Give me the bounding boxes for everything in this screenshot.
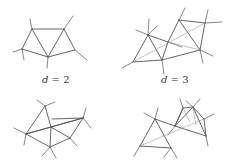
half-edge	[22, 49, 24, 60]
half-edge	[155, 108, 158, 119]
graph-edge	[22, 29, 32, 49]
half-edge	[134, 146, 140, 156]
half-edge	[122, 62, 133, 68]
half-edge	[14, 128, 26, 134]
half-edge	[168, 42, 182, 47]
graph-bottom-right	[134, 99, 214, 158]
half-edge	[144, 113, 155, 119]
graph-edge	[45, 106, 51, 127]
graph-edge	[133, 60, 162, 62]
graph-top-left	[13, 16, 87, 68]
graph-edge	[162, 50, 200, 60]
half-edge	[50, 147, 56, 158]
graph-edge	[179, 20, 205, 23]
half-edge	[30, 19, 32, 29]
half-edge	[70, 138, 77, 146]
graph-edge	[51, 127, 70, 138]
graph-edge	[183, 107, 193, 108]
half-edge	[164, 148, 171, 157]
half-edge	[186, 101, 193, 107]
dashed-edge	[183, 108, 190, 122]
half-edge	[180, 99, 183, 108]
half-edge	[83, 118, 91, 128]
half-edge	[47, 57, 48, 68]
graph-edge	[175, 107, 193, 126]
label-d2-eq: = 2	[48, 74, 69, 85]
half-edge	[75, 50, 87, 60]
graph-bottom-left	[14, 100, 91, 158]
graph-edge	[175, 126, 206, 136]
graph-edge	[175, 108, 183, 126]
half-edge	[148, 26, 157, 35]
half-edge	[37, 100, 45, 106]
half-edge	[205, 22, 222, 23]
half-edge	[168, 126, 175, 135]
graph-edge	[26, 134, 50, 147]
graph-edge	[50, 138, 70, 147]
half-edge	[205, 10, 208, 23]
half-edge	[136, 30, 148, 35]
half-edge	[206, 136, 208, 146]
half-edge	[83, 108, 86, 118]
half-edge	[64, 16, 73, 29]
half-edge	[13, 49, 22, 52]
half-edge	[200, 50, 213, 56]
half-edge	[162, 60, 164, 74]
graph-edge	[168, 20, 179, 42]
half-edge	[193, 99, 200, 107]
graph-edge	[140, 119, 155, 146]
label-d3: d = 3	[161, 74, 189, 85]
half-edge	[148, 19, 149, 35]
half-edge	[171, 148, 177, 158]
graph-edge	[50, 127, 51, 147]
graph-edge	[200, 23, 205, 50]
graph-edge	[48, 50, 75, 57]
graph-edge	[140, 146, 171, 148]
graph-top-right	[122, 8, 222, 74]
label-d2: d = 2	[42, 74, 70, 85]
graph-edge	[64, 29, 75, 50]
label-d3-eq: = 3	[167, 74, 188, 85]
half-edge	[179, 8, 185, 20]
graph-edge	[48, 29, 64, 57]
graph-edge	[193, 107, 204, 119]
graph-figure	[0, 0, 233, 163]
half-edge	[42, 147, 50, 156]
half-edge	[45, 102, 55, 106]
half-edge	[200, 50, 203, 63]
half-edge	[24, 134, 26, 145]
half-edge	[204, 114, 214, 119]
